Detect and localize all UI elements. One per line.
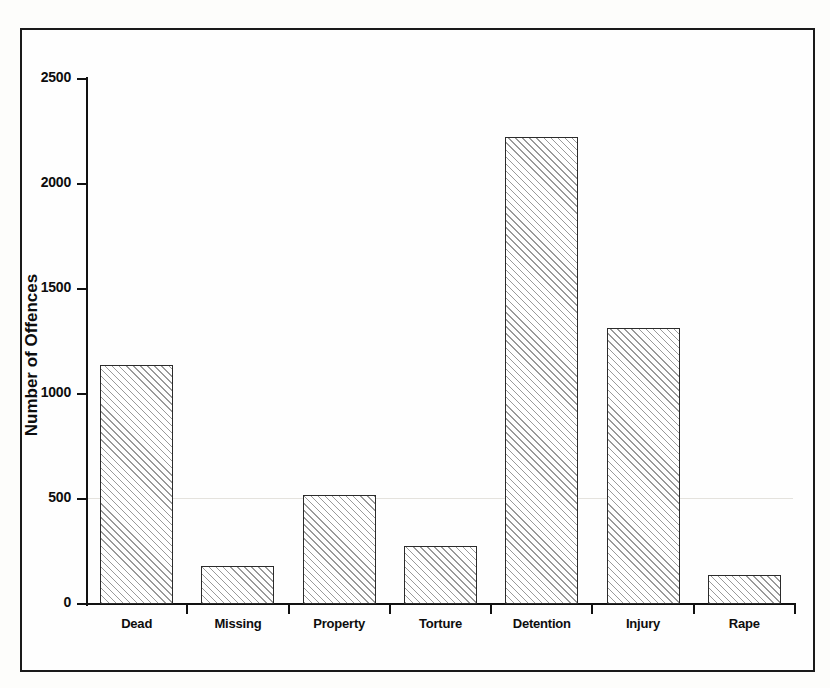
- y-axis-tick-label: 1500: [0, 279, 71, 295]
- x-axis-tick-mark: [389, 603, 391, 614]
- x-axis-tick-mark: [591, 603, 593, 614]
- y-axis-tick-label: 1000: [0, 384, 71, 400]
- bar-dead: [100, 365, 173, 604]
- x-axis-label-missing: Missing: [187, 616, 288, 631]
- y-axis-tick-label: 0: [0, 594, 71, 610]
- x-axis-tick-mark: [186, 603, 188, 614]
- x-axis-label-injury: Injury: [592, 616, 693, 631]
- x-axis-label-detention: Detention: [491, 616, 592, 631]
- bar-detention: [505, 137, 578, 604]
- x-axis-label-dead: Dead: [86, 616, 187, 631]
- bars-layer: [86, 79, 795, 604]
- figure-container: Number of Offences 05001000150020002500 …: [0, 0, 830, 688]
- y-axis-tick-label: 500: [0, 489, 71, 505]
- y-axis-tick-label: 2500: [0, 69, 71, 85]
- y-axis-tick-label: 2000: [0, 174, 71, 190]
- bar-torture: [404, 546, 477, 604]
- x-axis-tick-mark: [693, 603, 695, 614]
- x-axis-tick-mark: [288, 603, 290, 614]
- x-axis-label-torture: Torture: [390, 616, 491, 631]
- x-axis-end-tick: [794, 603, 796, 614]
- bar-rape: [708, 575, 781, 604]
- x-axis-label-rape: Rape: [694, 616, 795, 631]
- bar-injury: [607, 328, 680, 604]
- bar-property: [303, 495, 376, 604]
- x-axis-tick-mark: [490, 603, 492, 614]
- x-axis-label-property: Property: [289, 616, 390, 631]
- bar-missing: [201, 566, 274, 604]
